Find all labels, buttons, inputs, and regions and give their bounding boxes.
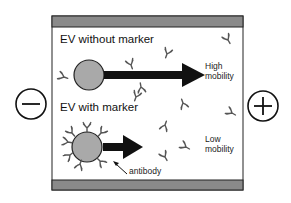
antibody-label: antibody (129, 166, 161, 176)
panel-title-without-marker: EV without marker (60, 33, 154, 45)
high-mobility-line1: High (205, 61, 234, 71)
bottom-bar (52, 180, 243, 190)
panel-title-with-marker: EV with marker (60, 101, 138, 113)
plus-electrode-icon (248, 91, 278, 121)
ev-with-marker-particle (72, 132, 102, 162)
high-mobility-label: High mobility (205, 61, 234, 81)
low-mobility-line2: mobility (205, 144, 234, 154)
top-bar (52, 16, 243, 27)
ev-without-marker-particle (74, 60, 104, 90)
low-mobility-label: Low mobility (205, 134, 234, 154)
high-mobility-line2: mobility (205, 71, 234, 81)
minus-electrode-icon (16, 89, 46, 119)
low-mobility-line1: Low (205, 134, 234, 144)
